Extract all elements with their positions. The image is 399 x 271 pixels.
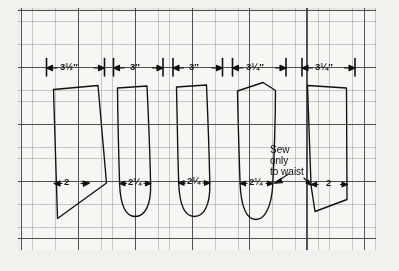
pattern-pieces-drawing bbox=[0, 0, 399, 271]
piece-2-width-label: 3″ bbox=[130, 62, 140, 73]
pattern-diagram-page: 3½″ 3″ 3″ 3¼″ 3¼″ 2 2¼ 2¼ 2¼ 2 Sew only … bbox=[0, 0, 399, 271]
bottom-dimension-arrows bbox=[54, 178, 348, 187]
sew-note-line-2: only bbox=[270, 155, 304, 166]
piece-2-outline bbox=[118, 86, 151, 217]
piece-1-bottom-label: 2 bbox=[64, 177, 69, 188]
sew-note: Sew only to waist bbox=[270, 144, 304, 178]
piece-3-outline bbox=[177, 85, 210, 217]
piece-1-width-label: 3½″ bbox=[60, 62, 78, 73]
piece-5-outline bbox=[308, 86, 348, 212]
piece-3-bottom-label: 2¼ bbox=[187, 176, 200, 187]
piece-3-width-label: 3″ bbox=[189, 62, 199, 73]
piece-2-bottom-label: 2¼ bbox=[128, 177, 141, 188]
piece-5-bottom-label: 2 bbox=[326, 178, 331, 189]
top-dimension-arrows bbox=[47, 59, 356, 77]
sew-note-line-1: Sew bbox=[270, 144, 304, 155]
piece-1-outline bbox=[54, 86, 107, 219]
piece-4-bottom-label: 2¼ bbox=[249, 177, 262, 188]
sew-note-line-3: to waist bbox=[270, 166, 304, 177]
piece-5-width-label: 3¼″ bbox=[315, 62, 333, 73]
piece-4-width-label: 3¼″ bbox=[246, 62, 264, 73]
